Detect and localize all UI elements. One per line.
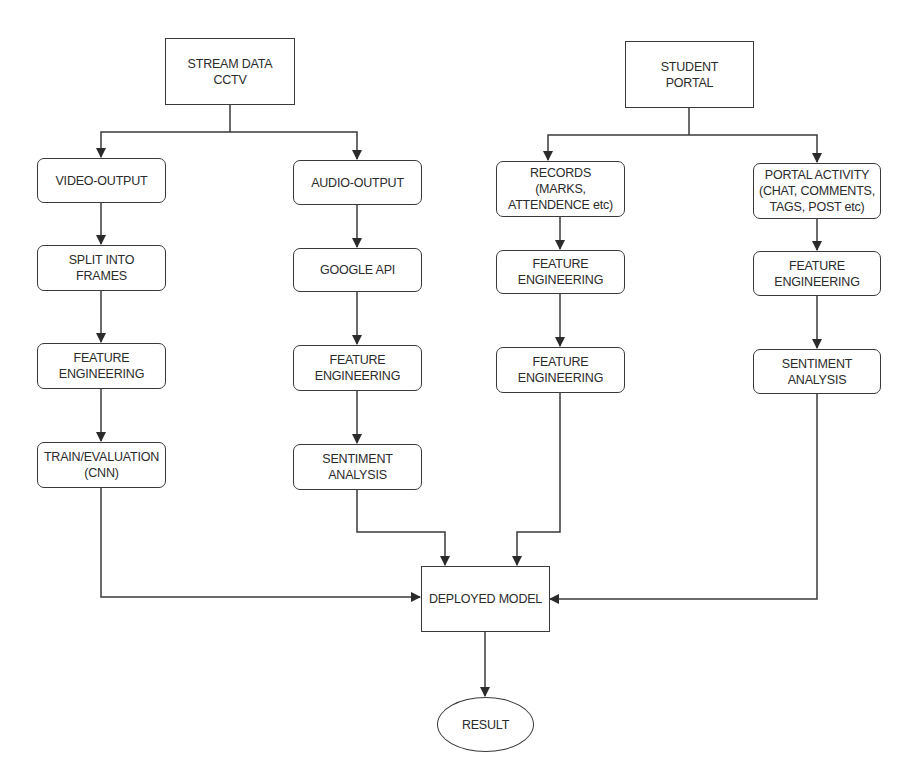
node-label: FEATURE ENGINEERING bbox=[59, 350, 144, 382]
node-label: RESULT bbox=[462, 717, 509, 733]
node-records-feature-engineering-1: FEATURE ENGINEERING bbox=[496, 250, 625, 294]
node-label: AUDIO-OUTPUT bbox=[311, 175, 404, 191]
node-label: SENTIMENT ANALYSIS bbox=[782, 356, 852, 388]
edge-stream-video bbox=[101, 132, 230, 157]
node-split-into-frames: SPLIT INTO FRAMES bbox=[37, 245, 166, 291]
node-activity-sentiment-analysis: SENTIMENT ANALYSIS bbox=[753, 349, 881, 394]
edge-records-deployed bbox=[517, 392, 560, 565]
edge-portal-records bbox=[548, 135, 689, 160]
node-video-feature-engineering: FEATURE ENGINEERING bbox=[37, 343, 166, 389]
node-label: SPLIT INTO FRAMES bbox=[69, 252, 135, 284]
node-train-evaluation: TRAIN/EVALUATION (CNN) bbox=[37, 442, 166, 488]
node-label: FEATURE ENGINEERING bbox=[315, 352, 400, 384]
node-portal-activity: PORTAL ACTIVITY (CHAT, COMMENTS, TAGS, P… bbox=[753, 163, 881, 219]
node-label: FEATURE ENGINEERING bbox=[774, 258, 859, 290]
node-activity-feature-engineering: FEATURE ENGINEERING bbox=[753, 251, 881, 296]
node-label: SENTIMENT ANALYSIS bbox=[322, 451, 392, 483]
edge-audio-sentiment-deployed bbox=[357, 489, 445, 565]
node-label: GOOGLE API bbox=[320, 262, 395, 278]
edge-train-deployed bbox=[101, 487, 420, 597]
node-label: DEPLOYED MODEL bbox=[429, 591, 542, 607]
edge-activity-sentiment-deployed bbox=[550, 393, 817, 599]
node-student-portal: STUDENT PORTAL bbox=[625, 41, 754, 108]
node-records: RECORDS (MARKS, ATTENDENCE etc) bbox=[496, 161, 625, 217]
node-label: VIDEO-OUTPUT bbox=[55, 173, 147, 189]
node-audio-feature-engineering: FEATURE ENGINEERING bbox=[293, 345, 422, 391]
node-video-output: VIDEO-OUTPUT bbox=[37, 158, 166, 203]
node-label: RECORDS (MARKS, ATTENDENCE etc) bbox=[508, 165, 613, 213]
edge-stream-audio bbox=[230, 132, 357, 159]
node-audio-sentiment-analysis: SENTIMENT ANALYSIS bbox=[293, 444, 422, 490]
node-label: PORTAL ACTIVITY (CHAT, COMMENTS, TAGS, P… bbox=[759, 167, 875, 215]
node-label: FEATURE ENGINEERING bbox=[518, 354, 603, 386]
node-google-api: GOOGLE API bbox=[293, 248, 422, 292]
node-deployed-model: DEPLOYED MODEL bbox=[421, 566, 550, 632]
node-label: STUDENT PORTAL bbox=[661, 59, 719, 91]
node-stream-data-cctv: STREAM DATA CCTV bbox=[165, 38, 295, 105]
node-audio-output: AUDIO-OUTPUT bbox=[293, 160, 422, 205]
node-label: STREAM DATA CCTV bbox=[188, 56, 273, 88]
node-result: RESULT bbox=[437, 697, 534, 752]
node-label: TRAIN/EVALUATION (CNN) bbox=[44, 449, 159, 481]
node-records-feature-engineering-2: FEATURE ENGINEERING bbox=[496, 347, 625, 393]
node-label: FEATURE ENGINEERING bbox=[518, 256, 603, 288]
edge-portal-activity bbox=[689, 135, 817, 162]
